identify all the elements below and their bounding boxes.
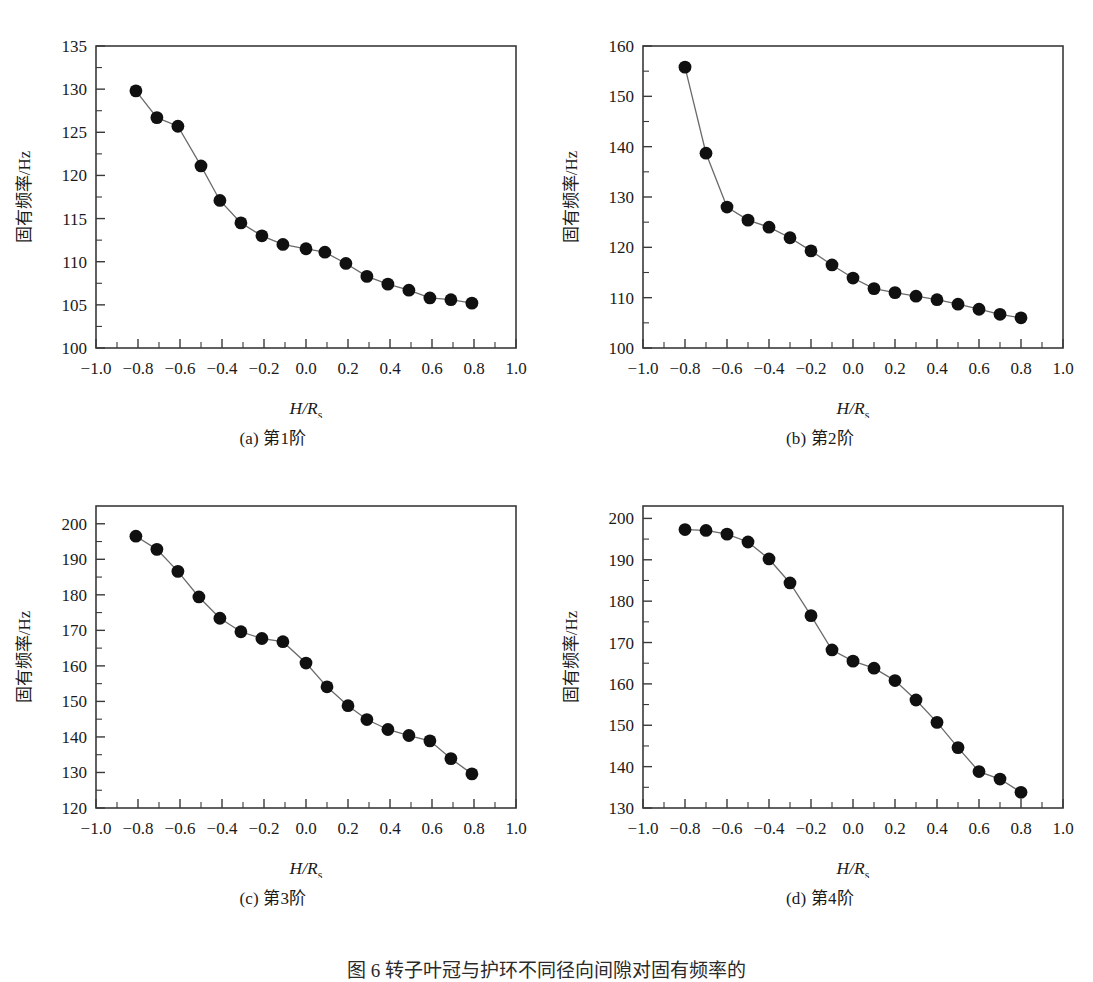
data-point	[445, 752, 458, 765]
x-tick-label: 0.8	[463, 819, 484, 838]
x-tick-label: 0.2	[337, 819, 358, 838]
data-point	[1015, 311, 1028, 324]
x-tick-label: −0.2	[796, 359, 827, 378]
x-tick-label: 0.0	[842, 359, 863, 378]
y-tick-label: 130	[62, 763, 88, 782]
y-tick-label: 160	[62, 657, 88, 676]
data-series-line	[136, 91, 472, 303]
data-point	[679, 523, 692, 536]
x-tick-label: 0.4	[379, 819, 401, 838]
panel-caption-d: (d) 第4阶	[547, 884, 1093, 909]
data-point	[340, 257, 353, 270]
x-tick-label: 0.2	[337, 359, 358, 378]
x-axis-title: H/Rs	[289, 858, 323, 878]
y-tick-label: 150	[62, 692, 88, 711]
data-point	[784, 231, 797, 244]
data-point	[466, 297, 479, 310]
y-tick-label: 140	[609, 138, 635, 157]
data-point	[277, 635, 290, 648]
y-tick-label: 150	[609, 716, 635, 735]
y-tick-label: 130	[609, 799, 635, 818]
plot-area-a: 100105110115120125130135−1.0−0.8−0.6−0.4…	[0, 18, 546, 418]
data-point	[826, 644, 839, 657]
y-tick-label: 100	[609, 339, 635, 358]
x-tick-label: −1.0	[628, 819, 659, 838]
data-point	[1015, 786, 1028, 799]
data-point	[130, 84, 143, 97]
chart-panel-a: 100105110115120125130135−1.0−0.8−0.6−0.4…	[0, 18, 546, 480]
data-point	[424, 734, 437, 747]
data-point	[235, 216, 248, 229]
y-tick-label: 160	[609, 675, 635, 694]
x-tick-label: 0.4	[926, 819, 948, 838]
x-tick-label: 0.0	[295, 359, 316, 378]
y-tick-label: 120	[62, 799, 88, 818]
data-point	[361, 270, 374, 283]
data-point	[721, 201, 734, 214]
data-point	[151, 111, 164, 124]
x-tick-label: 1.0	[1052, 359, 1073, 378]
x-tick-label: −0.8	[123, 359, 154, 378]
x-tick-label: −0.6	[165, 819, 196, 838]
data-point	[868, 282, 881, 295]
y-tick-label: 160	[609, 37, 635, 56]
x-tick-label: −0.2	[796, 819, 827, 838]
data-point	[931, 293, 944, 306]
x-tick-label: 0.0	[295, 819, 316, 838]
y-tick-label: 170	[62, 621, 88, 640]
y-tick-label: 200	[62, 515, 88, 534]
x-tick-label: 0.6	[968, 359, 989, 378]
data-point	[784, 577, 797, 590]
y-tick-label: 150	[609, 87, 635, 106]
data-point	[847, 655, 860, 668]
data-point	[679, 61, 692, 74]
data-point	[195, 160, 208, 173]
chart-panel-d: 130140150160170180190200−1.0−0.8−0.6−0.4…	[547, 478, 1093, 940]
data-point	[214, 194, 227, 207]
data-series-line	[136, 536, 472, 774]
y-tick-label: 110	[609, 289, 634, 308]
x-tick-label: 0.4	[926, 359, 948, 378]
y-axis-title: 固有频率/Hz	[15, 150, 34, 243]
data-point	[700, 524, 713, 537]
data-point	[300, 242, 313, 255]
data-point	[973, 765, 986, 778]
chart-svg-b: 100110120130140150160−1.0−0.8−0.6−0.4−0.…	[547, 18, 1093, 418]
data-point	[994, 308, 1007, 321]
data-point	[342, 699, 355, 712]
y-tick-label: 110	[62, 253, 87, 272]
y-tick-label: 180	[609, 592, 635, 611]
x-tick-label: −0.8	[670, 819, 701, 838]
data-point	[382, 278, 395, 291]
data-point	[889, 286, 902, 299]
x-tick-label: −0.4	[754, 359, 785, 378]
data-point	[700, 147, 713, 160]
data-point	[742, 536, 755, 549]
data-point	[193, 591, 206, 604]
data-point	[151, 543, 164, 556]
data-point	[910, 694, 923, 707]
data-point	[763, 221, 776, 234]
data-point	[910, 290, 923, 303]
x-tick-label: −1.0	[628, 359, 659, 378]
data-point	[805, 609, 818, 622]
plot-area-b: 100110120130140150160−1.0−0.8−0.6−0.4−0.…	[547, 18, 1093, 418]
y-axis-title: 固有频率/Hz	[562, 610, 581, 703]
y-tick-label: 130	[62, 80, 88, 99]
data-point	[172, 120, 185, 133]
x-axis-title: H/Rs	[836, 858, 870, 878]
chart-panel-b: 100110120130140150160−1.0−0.8−0.6−0.4−0.…	[547, 18, 1093, 480]
y-tick-label: 140	[62, 728, 88, 747]
data-point	[952, 741, 965, 754]
data-point	[319, 246, 332, 259]
y-tick-label: 180	[62, 586, 88, 605]
data-point	[130, 530, 143, 543]
x-tick-label: 1.0	[505, 819, 526, 838]
panel-caption-a: (a) 第1阶	[0, 424, 546, 449]
x-tick-label: 1.0	[1052, 819, 1073, 838]
data-point	[763, 553, 776, 566]
x-tick-label: 0.8	[1010, 359, 1031, 378]
data-point	[172, 565, 185, 578]
plot-area-d: 130140150160170180190200−1.0−0.8−0.6−0.4…	[547, 478, 1093, 878]
chart-svg-d: 130140150160170180190200−1.0−0.8−0.6−0.4…	[547, 478, 1093, 878]
